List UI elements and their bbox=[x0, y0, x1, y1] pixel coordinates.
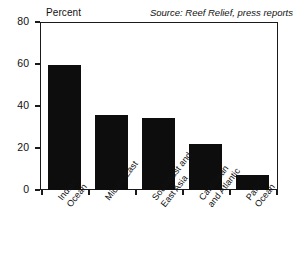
y-tick-mark bbox=[35, 63, 40, 64]
y-tick-label: 40 bbox=[17, 99, 29, 112]
y-tick-label: 20 bbox=[17, 141, 29, 154]
source-note: Source: Reef Relief, press reports bbox=[150, 7, 293, 18]
y-tick-mark bbox=[35, 105, 40, 106]
bars-group bbox=[41, 22, 276, 190]
y-axis-title: Percent bbox=[46, 7, 81, 18]
bar bbox=[48, 65, 81, 190]
y-tick-label: 60 bbox=[17, 57, 29, 70]
y-tick-mark bbox=[35, 147, 40, 148]
bar-chart: Percent Source: Reef Relief, press repor… bbox=[0, 0, 299, 264]
bar-slot bbox=[41, 22, 88, 190]
y-tick-label: 80 bbox=[17, 15, 29, 28]
y-tick-mark bbox=[35, 21, 40, 22]
x-axis-labels: IndianOceanMiddle EastSoutheast andEast … bbox=[0, 190, 299, 264]
bar-slot bbox=[229, 22, 276, 190]
